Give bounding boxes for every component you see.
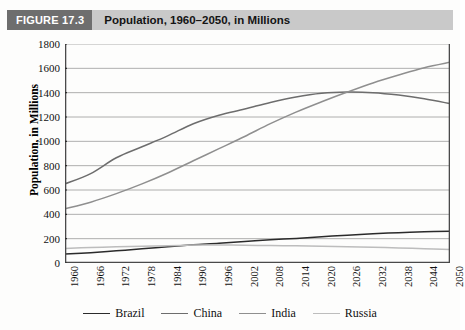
- series-line-russia: [65, 245, 450, 250]
- x-axis-tick-label: 1972: [120, 266, 131, 287]
- legend-entry-brazil: Brazil: [83, 306, 144, 321]
- x-axis-tick-label: 1960: [69, 266, 80, 287]
- y-axis-tick-label: 1000: [38, 135, 60, 147]
- x-axis-tick-label: 2020: [326, 266, 337, 287]
- x-axis-tick-label: 1990: [197, 266, 208, 287]
- x-axis-tick-label: 2002: [249, 266, 260, 287]
- x-axis-tick-label: 2014: [300, 266, 311, 287]
- x-axis-tick-label: 2050: [454, 266, 465, 287]
- figure-title: Population, 1960–2050, in Millions: [92, 14, 290, 26]
- y-axis-tick-label: 1800: [38, 38, 60, 50]
- x-axis-tick-label: 2038: [403, 266, 414, 287]
- legend-entry-russia: Russia: [313, 306, 377, 321]
- chart-legend: BrazilChinaIndiaRussia: [0, 306, 460, 321]
- legend-line-swatch: [313, 313, 340, 314]
- legend-line-swatch: [239, 313, 266, 314]
- legend-entry-china: China: [161, 306, 222, 321]
- series-lines: [65, 62, 450, 254]
- y-axis-tick-label: 0: [55, 257, 61, 269]
- legend-label: Brazil: [115, 306, 144, 321]
- y-axis-tick-label: 200: [44, 233, 61, 245]
- legend-line-swatch: [161, 313, 188, 314]
- legend-line-swatch: [83, 313, 110, 314]
- y-axis-tick-label: 600: [44, 184, 61, 196]
- y-axis-tick-label: 800: [44, 160, 61, 172]
- x-axis-tick-label: 1978: [146, 266, 157, 287]
- y-axis-tick-label: 1600: [38, 62, 60, 74]
- gridlines: [65, 44, 450, 239]
- legend-label: Russia: [345, 306, 377, 321]
- figure-header: FIGURE 17.3 Population, 1960–2050, in Mi…: [7, 10, 453, 30]
- y-axis-tick-labels: 020040060080010001200140016001800: [18, 44, 60, 263]
- legend-label: India: [271, 306, 296, 321]
- y-axis-tick-label: 400: [44, 208, 61, 220]
- legend-label: China: [193, 306, 222, 321]
- figure-number-badge: FIGURE 17.3: [7, 10, 92, 30]
- series-line-china: [65, 92, 450, 184]
- x-axis-tick-label: 1984: [172, 266, 183, 287]
- x-axis-tick-label: 2032: [377, 266, 388, 287]
- y-axis-tick-label: 1200: [38, 111, 60, 123]
- y-axis-tick-label: 1400: [38, 87, 60, 99]
- line-chart-svg: [65, 44, 450, 263]
- series-line-brazil: [65, 231, 450, 254]
- x-axis-tick-labels: 1960196619721978198419901996200220082014…: [65, 266, 450, 310]
- x-axis-tick-label: 1966: [95, 266, 106, 287]
- x-axis-tick-label: 2026: [351, 266, 362, 287]
- x-axis-tick-label: 2044: [428, 266, 439, 287]
- x-axis-tick-label: 1996: [223, 266, 234, 287]
- legend-entry-india: India: [239, 306, 296, 321]
- series-line-india: [65, 62, 450, 209]
- chart-area: Population, in Millions 0200400600800100…: [0, 34, 460, 330]
- plot-area: [65, 44, 450, 263]
- x-axis-tick-label: 2008: [274, 266, 285, 287]
